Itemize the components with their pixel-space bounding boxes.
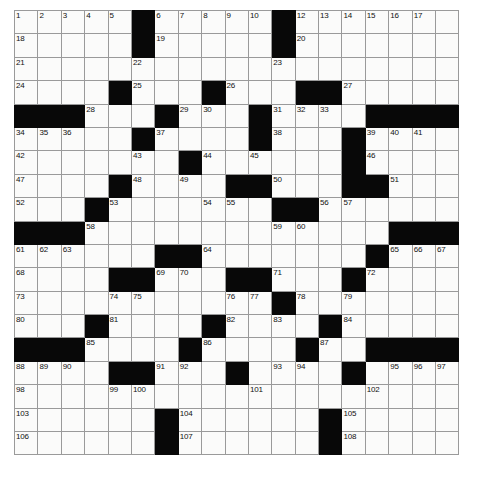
open-cell[interactable] — [389, 151, 412, 174]
open-cell[interactable] — [108, 432, 131, 455]
open-cell[interactable]: 91 — [155, 361, 178, 384]
open-cell[interactable] — [365, 81, 388, 104]
open-cell[interactable] — [131, 408, 154, 431]
open-cell[interactable] — [61, 198, 84, 221]
open-cell[interactable] — [319, 361, 342, 384]
open-cell[interactable] — [436, 432, 459, 455]
open-cell[interactable]: 22 — [131, 57, 154, 80]
open-cell[interactable] — [85, 127, 108, 150]
open-cell[interactable] — [85, 57, 108, 80]
open-cell[interactable]: 73 — [15, 291, 38, 314]
open-cell[interactable] — [412, 174, 435, 197]
open-cell[interactable] — [248, 244, 271, 267]
open-cell[interactable] — [319, 151, 342, 174]
open-cell[interactable] — [436, 34, 459, 57]
open-cell[interactable]: 81 — [108, 315, 131, 338]
open-cell[interactable]: 61 — [15, 244, 38, 267]
open-cell[interactable] — [436, 198, 459, 221]
open-cell[interactable] — [389, 385, 412, 408]
open-cell[interactable] — [272, 408, 295, 431]
open-cell[interactable]: 28 — [85, 104, 108, 127]
open-cell[interactable] — [108, 34, 131, 57]
open-cell[interactable]: 47 — [15, 174, 38, 197]
open-cell[interactable] — [248, 432, 271, 455]
open-cell[interactable] — [38, 291, 61, 314]
open-cell[interactable] — [436, 81, 459, 104]
open-cell[interactable] — [412, 151, 435, 174]
open-cell[interactable] — [295, 315, 318, 338]
open-cell[interactable]: 44 — [202, 151, 225, 174]
open-cell[interactable] — [436, 408, 459, 431]
open-cell[interactable]: 105 — [342, 408, 365, 431]
open-cell[interactable] — [38, 385, 61, 408]
open-cell[interactable]: 20 — [295, 34, 318, 57]
open-cell[interactable] — [225, 151, 248, 174]
open-cell[interactable]: 31 — [272, 104, 295, 127]
open-cell[interactable] — [178, 81, 201, 104]
open-cell[interactable] — [178, 291, 201, 314]
open-cell[interactable]: 94 — [295, 361, 318, 384]
open-cell[interactable] — [61, 174, 84, 197]
open-cell[interactable] — [225, 127, 248, 150]
open-cell[interactable] — [108, 127, 131, 150]
open-cell[interactable] — [412, 57, 435, 80]
open-cell[interactable]: 24 — [15, 81, 38, 104]
open-cell[interactable] — [202, 385, 225, 408]
open-cell[interactable] — [108, 151, 131, 174]
open-cell[interactable]: 9 — [225, 11, 248, 34]
open-cell[interactable]: 64 — [202, 244, 225, 267]
open-cell[interactable]: 41 — [412, 127, 435, 150]
open-cell[interactable]: 102 — [365, 385, 388, 408]
open-cell[interactable] — [342, 385, 365, 408]
open-cell[interactable]: 71 — [272, 268, 295, 291]
open-cell[interactable]: 85 — [85, 338, 108, 361]
open-cell[interactable] — [38, 57, 61, 80]
open-cell[interactable]: 40 — [389, 127, 412, 150]
open-cell[interactable] — [225, 104, 248, 127]
open-cell[interactable] — [108, 244, 131, 267]
open-cell[interactable] — [178, 385, 201, 408]
open-cell[interactable]: 13 — [319, 11, 342, 34]
open-cell[interactable] — [38, 151, 61, 174]
open-cell[interactable]: 19 — [155, 34, 178, 57]
crossword-grid[interactable]: 1234567891012131415161718192021222324252… — [14, 10, 459, 455]
open-cell[interactable] — [61, 291, 84, 314]
open-cell[interactable] — [295, 432, 318, 455]
open-cell[interactable]: 86 — [202, 338, 225, 361]
open-cell[interactable] — [225, 221, 248, 244]
open-cell[interactable] — [389, 198, 412, 221]
open-cell[interactable]: 35 — [38, 127, 61, 150]
open-cell[interactable] — [38, 432, 61, 455]
open-cell[interactable] — [436, 11, 459, 34]
open-cell[interactable]: 97 — [436, 361, 459, 384]
open-cell[interactable]: 16 — [389, 11, 412, 34]
open-cell[interactable]: 100 — [131, 385, 154, 408]
open-cell[interactable]: 30 — [202, 104, 225, 127]
open-cell[interactable] — [155, 81, 178, 104]
open-cell[interactable]: 107 — [178, 432, 201, 455]
open-cell[interactable] — [365, 291, 388, 314]
open-cell[interactable]: 8 — [202, 11, 225, 34]
open-cell[interactable]: 23 — [272, 57, 295, 80]
open-cell[interactable] — [155, 338, 178, 361]
open-cell[interactable] — [248, 198, 271, 221]
open-cell[interactable] — [272, 151, 295, 174]
open-cell[interactable] — [412, 81, 435, 104]
open-cell[interactable]: 99 — [108, 385, 131, 408]
open-cell[interactable] — [85, 174, 108, 197]
open-cell[interactable] — [61, 57, 84, 80]
open-cell[interactable]: 43 — [131, 151, 154, 174]
open-cell[interactable] — [85, 408, 108, 431]
open-cell[interactable] — [436, 385, 459, 408]
open-cell[interactable] — [61, 34, 84, 57]
open-cell[interactable]: 83 — [272, 315, 295, 338]
open-cell[interactable]: 75 — [131, 291, 154, 314]
open-cell[interactable] — [248, 338, 271, 361]
open-cell[interactable] — [248, 408, 271, 431]
open-cell[interactable] — [202, 174, 225, 197]
open-cell[interactable] — [108, 104, 131, 127]
open-cell[interactable]: 36 — [61, 127, 84, 150]
open-cell[interactable] — [202, 221, 225, 244]
open-cell[interactable] — [225, 385, 248, 408]
open-cell[interactable]: 17 — [412, 11, 435, 34]
